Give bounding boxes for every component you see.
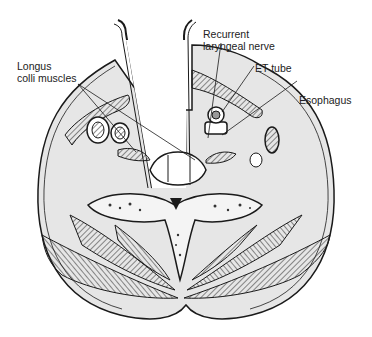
label-recurrent-laryngeal-nerve: Recurrent laryngeal nerve — [203, 28, 275, 52]
label-et-tube: ET tube — [255, 62, 292, 74]
label-longus-colli-muscles: Longus colli muscles — [17, 60, 77, 84]
label-line: Recurrent — [203, 28, 275, 40]
neck-cross-section-diagram: Recurrent laryngeal nerve Longus colli m… — [0, 0, 372, 337]
label-line: laryngeal nerve — [203, 40, 275, 52]
label-line: colli muscles — [17, 72, 77, 84]
label-esophagus: Esophagus — [299, 94, 352, 106]
label-line: Longus — [17, 60, 77, 72]
anatomy-illustration — [0, 0, 372, 337]
